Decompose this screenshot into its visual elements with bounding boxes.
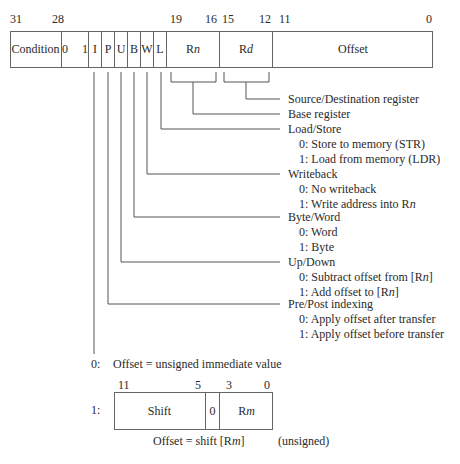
bit-label-31: 31 [10, 12, 22, 26]
register-offset-caption: Offset = shift [Rm] [153, 434, 245, 448]
rn-label-var: n [194, 42, 200, 57]
b-bit-field: B [128, 31, 141, 67]
rd-bracket [224, 72, 269, 82]
rn-label-prefix: R [186, 42, 194, 57]
sub-bit-label-5: 5 [195, 378, 201, 392]
caption-suffix: ] [241, 434, 245, 448]
writeback-opt1: 1: Write address into Rn [299, 197, 416, 211]
l-bit-field: L [154, 31, 167, 67]
up-down-opt1-suffix: ] [395, 285, 399, 299]
w-connector [147, 72, 280, 174]
up-down-opt0-suffix: ] [429, 270, 433, 284]
load-store-opt0: 0: Store to memory (STR) [299, 137, 425, 151]
offset-field: Offset [273, 31, 433, 67]
w-bit-label: W [141, 42, 152, 57]
p-bit-label: P [105, 42, 112, 57]
up-down-opt0: 0: Subtract offset from [Rn] [299, 270, 433, 284]
sub-bit-label-11: 11 [118, 378, 130, 392]
i-bit-label: I [93, 42, 97, 57]
bit-label-0: 0 [426, 12, 432, 26]
up-down-title: Up/Down [288, 255, 335, 269]
sub-bit-label-3: 3 [226, 378, 232, 392]
i-bit-field: I [89, 31, 102, 67]
shift-field: Shift [114, 392, 206, 430]
writeback-opt1-text: 1: Write address into R [299, 197, 410, 211]
rd-description: Source/Destination register [288, 92, 419, 106]
b-bit-label: B [130, 42, 138, 57]
rm-field: Rm [220, 392, 273, 430]
rm-label-prefix: R [238, 404, 246, 419]
fixed-bits-field: 0 1 [62, 31, 89, 67]
writeback-opt1-var: n [410, 197, 416, 211]
caption-var: m [232, 434, 241, 448]
l-bit-label: L [156, 42, 163, 57]
up-down-opt0-text: 0: Subtract offset from [R [299, 270, 423, 284]
condition-label: Condition [11, 42, 59, 57]
bit-label-12: 12 [259, 12, 271, 26]
rn-connector [193, 82, 280, 114]
bit-label-11: 11 [279, 12, 291, 26]
b-connector [134, 72, 280, 217]
rd-label-var: d [247, 42, 253, 57]
rn-bracket [171, 72, 216, 82]
rn-description: Base register [288, 107, 350, 121]
byte-word-opt1: 1: Byte [299, 240, 334, 254]
pre-post-opt1: 1: Apply offset before transfer [299, 327, 444, 341]
writeback-title: Writeback [288, 167, 338, 181]
register-offset-note: (unsigned) [278, 434, 329, 448]
rm-label-var: m [246, 404, 255, 419]
bit-label-28: 28 [52, 12, 64, 26]
caption-text: Offset = shift [R [153, 434, 232, 448]
zero-bit-field: 0 [206, 392, 220, 430]
rd-connector [246, 82, 280, 99]
pre-post-opt0: 0: Apply offset after transfer [299, 312, 435, 326]
u-bit-field: U [115, 31, 128, 67]
bit-label-16: 16 [205, 12, 217, 26]
u-bit-label: U [117, 42, 126, 57]
p-bit-field: P [102, 31, 115, 67]
sub-bit-label-0: 0 [264, 378, 270, 392]
offset-label: Offset [338, 42, 368, 57]
zero-bit-label: 0 [210, 404, 216, 419]
rd-label-prefix: R [239, 42, 247, 57]
w-bit-field: W [141, 31, 154, 67]
shift-label: Shift [148, 404, 171, 419]
byte-word-opt0: 0: Word [299, 225, 337, 239]
byte-word-title: Byte/Word [288, 210, 340, 224]
rn-field: Rn [167, 31, 220, 67]
writeback-opt0: 0: No writeback [299, 182, 376, 196]
load-store-opt1: 1: Load from memory (LDR) [299, 152, 440, 166]
immediate-description: Offset = unsigned immediate value [113, 357, 282, 371]
rd-field: Rd [220, 31, 273, 67]
l-connector [161, 72, 280, 129]
bit-label-19: 19 [170, 12, 182, 26]
register-key: 1: [91, 403, 100, 417]
fixed-bits-label: 0 1 [62, 42, 88, 57]
immediate-key: 0: [91, 357, 100, 371]
pre-post-title: Pre/Post indexing [288, 297, 373, 311]
u-connector [121, 72, 280, 262]
load-store-title: Load/Store [288, 122, 341, 136]
condition-field: Condition [10, 31, 62, 67]
bit-label-15: 15 [222, 12, 234, 26]
